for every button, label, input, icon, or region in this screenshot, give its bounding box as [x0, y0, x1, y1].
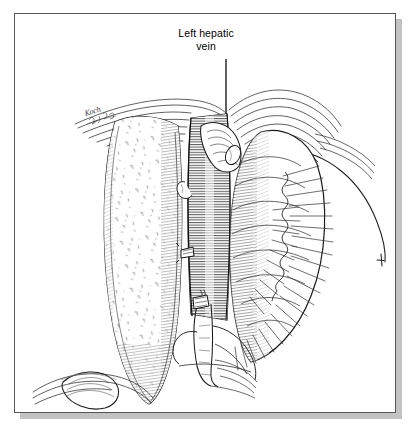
left-hepatic-lobe [95, 109, 195, 413]
figure-root: Left hepatic vein [0, 0, 420, 438]
plate-inner: Left hepatic vein [15, 14, 395, 412]
hilar-tissue-bridge [211, 360, 257, 398]
right-flank-fold [315, 134, 375, 179]
anatomical-illustration [15, 14, 396, 413]
illustration-plate: Left hepatic vein [14, 13, 396, 413]
